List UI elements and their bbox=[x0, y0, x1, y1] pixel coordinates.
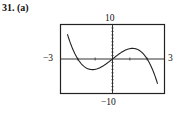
graph-window bbox=[0, 0, 180, 114]
